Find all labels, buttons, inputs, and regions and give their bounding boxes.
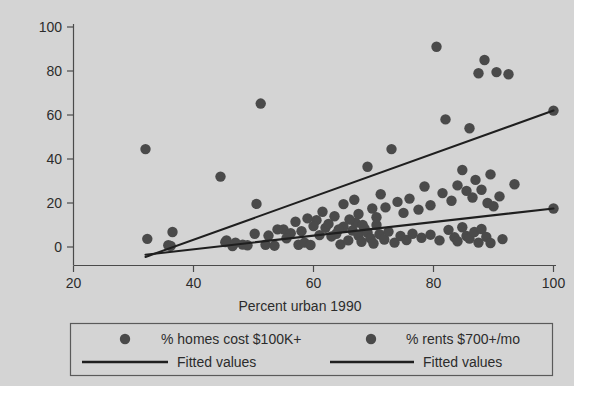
data-point (470, 175, 480, 185)
data-point (353, 209, 363, 219)
data-point (404, 193, 414, 203)
data-point (380, 202, 390, 212)
x-axis: 20 40 60 80 100 Percent urban 1990 (66, 266, 566, 315)
data-point (362, 162, 372, 172)
data-point (476, 185, 486, 195)
data-point (392, 197, 402, 207)
legend: % homes cost $100K+ Fitted values % rent… (71, 324, 553, 376)
data-point (485, 169, 495, 179)
data-point (376, 189, 386, 199)
data-point (305, 240, 315, 250)
data-point (398, 208, 408, 218)
x-tick-label-100: 100 (542, 275, 566, 291)
x-tick-label-80: 80 (426, 275, 442, 291)
y-tick-label-20: 20 (46, 195, 62, 211)
data-point (290, 217, 300, 227)
y-axis: 100 80 60 40 20 0 (39, 19, 74, 265)
data-point (497, 234, 507, 244)
legend-label-rents-fit: Fitted values (423, 354, 502, 370)
data-point (296, 226, 306, 236)
data-point (467, 192, 477, 202)
data-point (338, 199, 348, 209)
data-point (251, 199, 261, 209)
y-axis-ticks (67, 27, 74, 247)
y-tick-label-100: 100 (39, 19, 63, 35)
data-point (416, 233, 426, 243)
data-point (269, 240, 279, 250)
legend-label-rents: % rents $700+/mo (406, 331, 520, 347)
data-point (407, 229, 417, 239)
data-point (140, 144, 150, 154)
data-point (344, 214, 354, 224)
data-point (221, 235, 231, 245)
data-point (142, 234, 152, 244)
data-point (343, 235, 353, 245)
x-axis-tick-labels: 20 40 60 80 100 (66, 275, 566, 291)
data-point (250, 229, 260, 239)
legend-label-homes: % homes cost $100K+ (161, 331, 301, 347)
data-point (452, 236, 462, 246)
data-point (488, 201, 498, 211)
data-point (464, 123, 474, 133)
data-point (272, 224, 282, 234)
chart-screenshot: 100 80 60 40 20 0 20 40 60 80 (0, 0, 592, 396)
data-point (308, 221, 318, 231)
data-point (491, 67, 501, 77)
y-tick-label-0: 0 (54, 239, 62, 255)
data-point (256, 98, 266, 108)
data-point (413, 204, 423, 214)
y-tick-label-40: 40 (46, 151, 62, 167)
data-point (479, 55, 489, 65)
x-axis-title: Percent urban 1990 (239, 298, 362, 314)
data-point (215, 171, 225, 181)
data-point (356, 237, 366, 247)
legend-marker-homes-icon (120, 334, 130, 344)
series-1-points (166, 42, 559, 252)
data-point (329, 211, 339, 221)
scatter-chart: 100 80 60 40 20 0 20 40 60 80 (0, 0, 592, 396)
x-axis-ticks (74, 266, 554, 273)
x-tick-label-40: 40 (186, 275, 202, 291)
data-point (431, 42, 441, 52)
data-point (371, 212, 381, 222)
data-point (494, 191, 504, 201)
legend-marker-rents-icon (366, 334, 376, 344)
data-point (434, 235, 444, 245)
data-point (386, 144, 396, 154)
data-point (473, 68, 483, 78)
data-point (485, 238, 495, 248)
data-point (509, 179, 519, 189)
x-tick-label-60: 60 (306, 275, 322, 291)
series-0-points (140, 98, 558, 251)
data-point (263, 230, 273, 240)
data-point (503, 69, 513, 79)
data-point (440, 114, 450, 124)
data-point (425, 229, 435, 239)
legend-label-homes-fit: Fitted values (177, 354, 256, 370)
data-point (230, 237, 240, 247)
data-point (425, 200, 435, 210)
y-tick-label-60: 60 (46, 107, 62, 123)
data-points-layer (140, 42, 558, 252)
data-point (457, 165, 467, 175)
data-point (242, 240, 252, 250)
data-point (452, 180, 462, 190)
fitted-line-series-1 (146, 111, 554, 257)
data-point (419, 181, 429, 191)
data-point (437, 188, 447, 198)
fit-lines-layer (146, 111, 554, 257)
data-point (167, 227, 177, 237)
x-tick-label-20: 20 (66, 275, 82, 291)
data-point (446, 196, 456, 206)
y-tick-label-80: 80 (46, 63, 62, 79)
data-point (349, 195, 359, 205)
data-point (368, 238, 378, 248)
data-point (317, 207, 327, 217)
y-axis-tick-labels: 100 80 60 40 20 0 (39, 19, 63, 255)
